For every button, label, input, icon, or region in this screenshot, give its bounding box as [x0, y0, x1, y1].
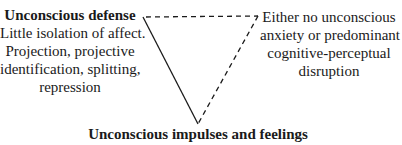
node-description-line: repression: [0, 78, 140, 96]
node-description-line: cognitive-perceptual: [260, 44, 398, 62]
edge-top-right-to-bottom: [198, 16, 258, 124]
node-description-line: Projection, projective: [0, 42, 140, 60]
edge-top-left-to-top-right: [146, 16, 258, 17]
node-unconscious-defense: Unconscious defense Little isolation of …: [0, 6, 140, 96]
node-description-line: identification, splitting,: [0, 60, 140, 78]
edge-top-left-to-bottom: [143, 17, 198, 124]
node-description-line: Either no unconscious: [260, 8, 398, 26]
triangle-diagram: Unconscious defense Little isolation of …: [0, 0, 402, 145]
node-description-line: anxiety or predominant: [260, 26, 398, 44]
node-unconscious-impulses: Unconscious impulses and feelings: [60, 125, 336, 143]
node-title: Unconscious defense: [0, 6, 140, 24]
node-description-line: disruption: [260, 62, 398, 80]
node-description-line: Little isolation of affect.: [0, 24, 140, 42]
node-anxiety-disruption: Either no unconscious anxiety or predomi…: [260, 8, 398, 80]
